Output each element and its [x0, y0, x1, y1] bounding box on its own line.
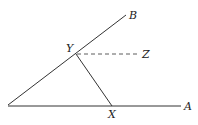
label-x: X [107, 108, 117, 121]
label-z: Z [141, 48, 150, 61]
angle-diagram: B Y Z X A [0, 0, 198, 125]
label-b: B [128, 9, 137, 22]
label-a: A [183, 100, 192, 113]
ray-ob [8, 15, 126, 105]
segment-yx [76, 54, 112, 106]
label-y: Y [66, 42, 75, 55]
